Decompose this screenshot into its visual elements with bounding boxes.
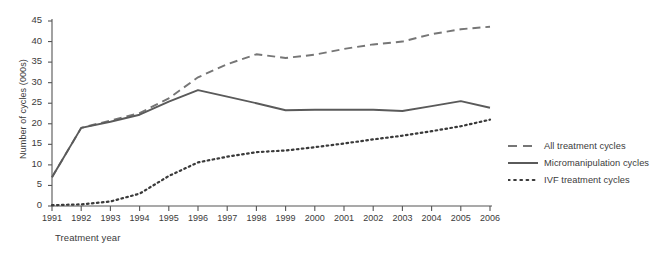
legend-item[interactable]: Micromanipulation cycles xyxy=(508,154,652,171)
y-tick-label: 40 xyxy=(20,35,42,46)
series-line xyxy=(52,27,490,177)
series-line xyxy=(52,90,490,177)
x-tick-label: 2006 xyxy=(473,213,507,223)
axis-layer xyxy=(48,19,492,211)
x-axis-title: Treatment year xyxy=(55,232,120,243)
y-tick-label: 10 xyxy=(20,158,42,169)
y-tick-label: 5 xyxy=(20,178,42,189)
legend-line-icon xyxy=(508,141,538,151)
y-tick-label: 30 xyxy=(20,76,42,87)
line-chart: Number of cycles (000s) 0510152025303540… xyxy=(0,0,652,258)
legend-line-icon xyxy=(508,158,538,168)
y-tick-label: 45 xyxy=(20,14,42,25)
y-tick-label: 20 xyxy=(20,117,42,128)
legend-label: Micromanipulation cycles xyxy=(544,158,649,168)
y-tick-label: 35 xyxy=(20,55,42,66)
legend-label: IVF treatment cycles xyxy=(544,175,630,185)
legend-label: All treatment cycles xyxy=(544,141,626,151)
y-tick-label: 15 xyxy=(20,137,42,148)
chart-legend: All treatment cyclesMicromanipulation cy… xyxy=(508,137,652,188)
series-line xyxy=(52,120,490,206)
y-tick-label: 25 xyxy=(20,96,42,107)
legend-item[interactable]: IVF treatment cycles xyxy=(508,171,652,188)
y-tick-label: 0 xyxy=(20,199,42,210)
series-layer xyxy=(52,27,490,205)
legend-line-icon xyxy=(508,175,538,185)
legend-item[interactable]: All treatment cycles xyxy=(508,137,652,154)
